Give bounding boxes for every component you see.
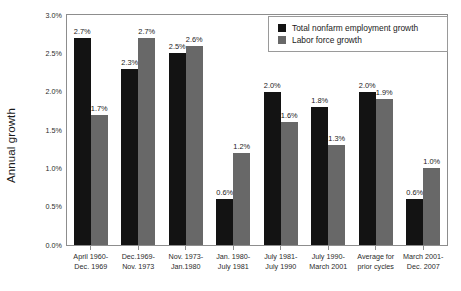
x-axis-ticks: [67, 246, 447, 250]
bar-value-label: 1.7%: [91, 104, 108, 113]
bar: 0.6%: [406, 199, 423, 245]
legend-swatch-icon: [278, 24, 286, 32]
x-axis-category-label-line: March 2001-: [400, 252, 447, 262]
x-axis-category-label: Jan. 1980-July 1981: [210, 252, 257, 271]
x-axis-category-label-line: July 1981: [210, 262, 257, 272]
legend-item[interactable]: Labor force growth: [278, 34, 440, 46]
bar-chart-figure: Annual growth 0.0%0.5%1.0%1.5%2.0%2.5%3.…: [0, 0, 461, 291]
legend-swatch-icon: [278, 36, 286, 44]
bar-value-label: 2.6%: [186, 35, 203, 44]
y-tick-label-text: 0.5%: [46, 202, 66, 211]
x-axis-category-label-line: Dec.1969-: [115, 252, 162, 262]
x-axis-category-label: July 1981-July 1990: [257, 252, 304, 271]
bar-value-label: 2.7%: [138, 27, 155, 36]
x-tick-mark: [328, 246, 329, 250]
x-tick-mark: [185, 246, 186, 250]
y-axis-title-text: Annual growth: [5, 108, 17, 183]
bar: 2.0%: [359, 92, 376, 245]
y-tick-label-text: 1.5%: [46, 125, 66, 134]
bar: 1.9%: [376, 99, 393, 245]
bar-value-label: 2.7%: [74, 27, 91, 36]
x-axis-category-label-line: Dec. 1969: [67, 262, 114, 272]
bar: 0.6%: [216, 199, 233, 245]
bar: 2.6%: [186, 46, 203, 245]
x-axis-category-label-line: Nov. 1973: [115, 262, 162, 272]
chart-legend: Total nonfarm employment growthLabor for…: [268, 16, 448, 52]
bar: 1.7%: [91, 115, 108, 245]
x-axis-category-label: March 2001-Dec. 2007: [400, 252, 447, 271]
bar: 1.8%: [311, 107, 328, 245]
x-axis-category-label-line: July 1981-: [257, 252, 304, 262]
bar-group: 2.5%2.6%: [169, 15, 203, 245]
bar: 2.7%: [138, 38, 155, 245]
y-tick-label-text: 1.0%: [46, 163, 66, 172]
y-tick-label-text: 0.0%: [46, 240, 66, 249]
bar-group: 2.3%2.7%: [121, 15, 155, 245]
x-tick-mark: [375, 246, 376, 250]
x-tick-mark: [138, 246, 139, 250]
x-tick-mark: [280, 246, 281, 250]
bar: 1.0%: [423, 168, 440, 245]
x-axis-category-label: Average forprior cycles: [352, 252, 399, 271]
x-tick-mark: [233, 246, 234, 250]
bar: 2.3%: [121, 69, 138, 245]
x-axis-category-label-line: July 1990: [257, 262, 304, 272]
x-axis-category-label-line: Jan.1980: [162, 262, 209, 272]
legend-item-label: Labor force growth: [292, 35, 362, 45]
x-axis-category-label: Dec.1969-Nov. 1973: [115, 252, 162, 271]
x-axis-category-label-line: April 1960-: [67, 252, 114, 262]
bar-value-label: 1.8%: [311, 96, 328, 105]
x-axis-category-label: April 1960-Dec. 1969: [67, 252, 114, 271]
x-tick-mark: [90, 246, 91, 250]
x-axis-category-label-line: Dec. 2007: [400, 262, 447, 272]
legend-item[interactable]: Total nonfarm employment growth: [278, 22, 440, 34]
y-axis-title: Annual growth: [0, 0, 22, 291]
bar: 1.2%: [233, 153, 250, 245]
bar-value-label: 1.0%: [423, 157, 440, 166]
x-axis-labels: April 1960-Dec. 1969Dec.1969-Nov. 1973No…: [67, 252, 447, 271]
bar-group: 2.7%1.7%: [74, 15, 108, 245]
bar-value-label: 2.0%: [264, 81, 281, 90]
bar-value-label: 2.0%: [359, 81, 376, 90]
bar: 1.3%: [328, 145, 345, 245]
bar-value-label: 1.2%: [233, 142, 250, 151]
bar: 2.7%: [74, 38, 91, 245]
bar: 1.6%: [281, 122, 298, 245]
y-tick-label-text: 2.5%: [46, 48, 66, 57]
x-axis-category-label: Nov. 1973-Jan.1980: [162, 252, 209, 271]
x-axis-category-label-line: Jan. 1980-: [210, 252, 257, 262]
bar-value-label: 0.6%: [216, 188, 233, 197]
bar-value-label: 1.3%: [328, 134, 345, 143]
x-axis-category-label: July 1990-March 2001: [305, 252, 352, 271]
x-axis-category-label-line: July 1990-: [305, 252, 352, 262]
bar-group: 0.6%1.2%: [216, 15, 250, 245]
y-tick-label-text: 3.0%: [46, 10, 66, 19]
bar-value-label: 2.5%: [169, 42, 186, 51]
bar-value-label: 2.3%: [121, 58, 138, 67]
bar: 2.0%: [264, 92, 281, 245]
x-axis-category-label-line: Average for: [352, 252, 399, 262]
x-axis-category-label-line: March 2001: [305, 262, 352, 272]
x-axis-category-label-line: Nov. 1973-: [162, 252, 209, 262]
x-axis-category-label-line: prior cycles: [352, 262, 399, 272]
bar-value-label: 1.6%: [281, 111, 298, 120]
bar-value-label: 0.6%: [406, 188, 423, 197]
bar: 2.5%: [169, 53, 186, 245]
x-tick-mark: [423, 246, 424, 250]
y-tick-label-text: 2.0%: [46, 87, 66, 96]
bar-value-label: 1.9%: [376, 88, 393, 97]
legend-item-label: Total nonfarm employment growth: [292, 23, 418, 33]
